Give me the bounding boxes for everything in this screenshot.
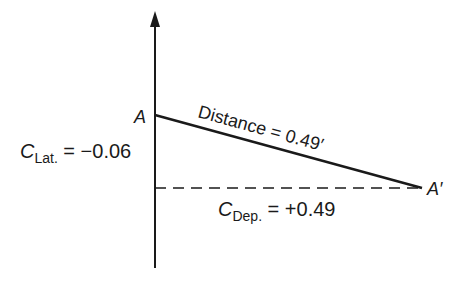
departure-label: CDep. = +0.49 [218,198,335,224]
point-a-label: A [133,107,146,127]
point-a-prime-label: A′ [426,179,443,199]
lat-symbol: C [20,140,35,162]
traverse-diagram: A A′ Distance = 0.49′ CLat. = −0.06 CDep… [0,0,468,290]
arrow-up-icon [150,11,160,27]
lat-subscript: Lat. [34,150,57,166]
latitude-label: CLat. = −0.06 [20,140,131,166]
dep-subscript: Dep. [232,208,262,224]
distance-label: Distance = 0.49′ [196,102,326,155]
dep-value: = +0.49 [262,198,335,220]
lat-value: = −0.06 [58,140,131,162]
dep-symbol: C [218,198,233,220]
